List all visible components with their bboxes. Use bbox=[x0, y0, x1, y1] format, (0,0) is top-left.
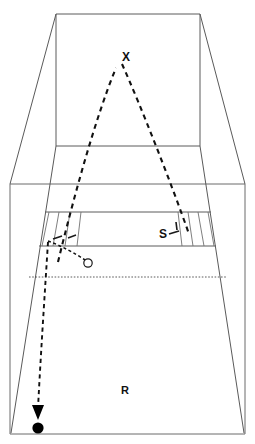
left-tick-marks bbox=[53, 235, 76, 239]
hatch-right-1 bbox=[178, 212, 182, 246]
left-service-box-hatching bbox=[42, 212, 81, 246]
figure-root: X S R bbox=[0, 0, 255, 444]
floor-edge-left bbox=[11, 146, 56, 433]
label-service-s: S bbox=[159, 228, 167, 240]
ball-position-marker bbox=[84, 259, 92, 267]
hatch-right-2 bbox=[188, 212, 193, 246]
trajectory-descending bbox=[122, 64, 189, 234]
side-wall-right-upper bbox=[200, 14, 245, 184]
ball-trajectory-group bbox=[58, 64, 189, 262]
trajectory-bounce-to-ball bbox=[48, 241, 85, 260]
trajectory-return-to-floor bbox=[38, 242, 48, 408]
tick-left-b bbox=[68, 235, 76, 238]
hatch-right-3 bbox=[198, 212, 204, 246]
floor-edge-right bbox=[200, 146, 244, 433]
side-wall-left-upper bbox=[10, 14, 56, 184]
floor-lines-group bbox=[29, 212, 227, 277]
s-label-pointer bbox=[169, 222, 179, 234]
direction-arrow-icon bbox=[32, 405, 44, 420]
s-pointer-tick-diagonal bbox=[169, 231, 179, 234]
bounce-path-group bbox=[48, 241, 85, 260]
impact-point-marker bbox=[32, 422, 43, 433]
s-pointer-tick-vertical bbox=[176, 222, 177, 230]
hatch-left-2 bbox=[53, 212, 59, 246]
court-diagram-svg bbox=[0, 0, 255, 444]
label-apex-x: X bbox=[122, 51, 130, 63]
hatch-left-4 bbox=[77, 212, 81, 246]
back-wall-group bbox=[56, 14, 200, 146]
return-path-group bbox=[32, 242, 48, 434]
label-rear-r: R bbox=[121, 385, 129, 396]
right-service-box-hatching bbox=[178, 212, 214, 246]
